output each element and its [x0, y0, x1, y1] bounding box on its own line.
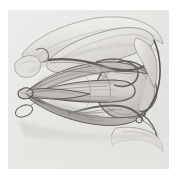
figure-root	[0, 0, 177, 179]
anatomical-plate	[8, 10, 169, 169]
orbit-anatomy-drawing	[8, 10, 169, 169]
plate-edge-fade-bottom	[8, 138, 169, 169]
